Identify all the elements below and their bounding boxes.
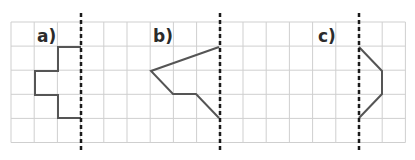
grid-drawing	[0, 0, 415, 160]
panel-label-a: a)	[37, 28, 56, 45]
symmetry-exercise-figure: a) b) c)	[0, 0, 415, 160]
panel-label-c: c)	[318, 28, 336, 45]
half-shape-b	[151, 47, 219, 118]
panel-label-b: b)	[153, 28, 173, 45]
square-grid	[11, 22, 405, 143]
half-shapes	[35, 47, 382, 118]
half-shape-c	[359, 47, 382, 118]
half-shape-a	[35, 47, 81, 118]
